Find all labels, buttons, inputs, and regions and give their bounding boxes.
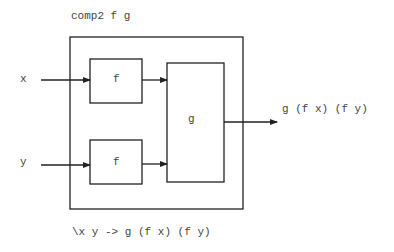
g-block bbox=[167, 63, 224, 182]
lambda-footer: \x y -> g (f x) (f y) bbox=[72, 226, 211, 238]
f-block-top-label: f bbox=[113, 73, 120, 85]
comp2-diagram: comp2 f g f f g x y g (f x) (f y) \x y -… bbox=[0, 0, 394, 252]
diagram-title: comp2 f g bbox=[71, 10, 130, 22]
input-x-label: x bbox=[20, 73, 27, 85]
input-y-label: y bbox=[20, 156, 27, 168]
output-label: g (f x) (f y) bbox=[282, 103, 368, 115]
f-block-bottom-label: f bbox=[113, 156, 120, 168]
g-block-label: g bbox=[188, 113, 195, 125]
